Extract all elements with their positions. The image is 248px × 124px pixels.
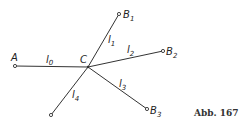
label-b3: B3 — [150, 105, 161, 119]
edge-l2 — [88, 51, 163, 67]
label-l4: l4 — [72, 89, 79, 103]
label-l1: l1 — [108, 34, 115, 48]
label-c: C — [80, 54, 87, 65]
label-b2: B2 — [166, 46, 178, 60]
label-b1: B1 — [123, 9, 134, 23]
label-a: A — [10, 52, 18, 63]
figure-caption: Abb. 167 — [193, 108, 239, 118]
node-c — [87, 66, 89, 68]
node-l4-end — [49, 113, 52, 116]
label-l0: l0 — [46, 54, 54, 67]
star-graph-diagram: A C B1 B2 B3 l0 l1 l2 l3 l4 Abb. 167 — [0, 0, 248, 124]
edge-l3 — [88, 67, 147, 109]
node-a — [13, 64, 16, 67]
label-l2: l2 — [127, 44, 135, 58]
node-b3 — [145, 107, 148, 110]
node-b1 — [117, 12, 120, 15]
edge-l4 — [51, 67, 88, 115]
node-b2 — [161, 49, 164, 52]
